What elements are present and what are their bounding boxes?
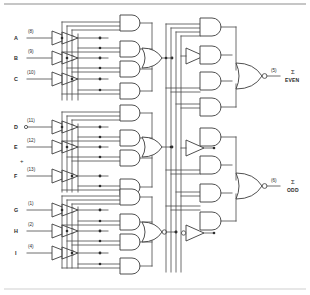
input-pin-D: (11) — [27, 118, 35, 123]
label-layer: A (8) B (9) C (10) D (11) E (12) + F (13… — [0, 0, 310, 295]
output-pin-even: (5) — [271, 68, 277, 73]
input-label-I: I — [15, 250, 17, 256]
input-pin-F: (13) — [27, 167, 36, 172]
input-pin-G: (1) — [28, 201, 34, 206]
input-label-G: G — [14, 207, 18, 213]
input-pin-E: (12) — [27, 138, 36, 143]
output-pin-odd: (6) — [271, 178, 277, 183]
input-pin-A: (8) — [28, 29, 34, 34]
input-pin-H: (2) — [28, 222, 34, 227]
input-label-E: E — [14, 144, 18, 150]
schematic-figure: A (8) B (9) C (10) D (11) E (12) + F (13… — [0, 0, 310, 295]
input-label-F: F — [14, 173, 18, 179]
input-label-B: B — [14, 55, 18, 61]
input-pin-B: (9) — [28, 49, 34, 54]
output-label-odd: ODD — [287, 187, 299, 193]
group-separator-plus: + — [20, 158, 24, 164]
input-pin-I: (4) — [28, 244, 34, 249]
output-label-even: EVEN — [285, 77, 300, 83]
output-sigma-even: Σ — [291, 69, 295, 75]
input-label-A: A — [14, 35, 18, 41]
input-pin-C: (10) — [27, 70, 36, 75]
input-label-C: C — [14, 76, 18, 82]
input-label-D: D — [14, 124, 18, 130]
output-sigma-odd: Σ — [291, 179, 295, 185]
input-label-H: H — [14, 228, 18, 234]
